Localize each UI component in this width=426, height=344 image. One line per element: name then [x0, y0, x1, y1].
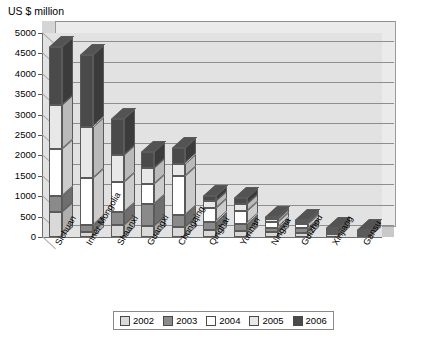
bar-segment[interactable] [141, 168, 154, 184]
bar-segment[interactable] [111, 155, 124, 182]
y-tick [38, 94, 42, 95]
bar-segment[interactable] [49, 47, 62, 105]
bar-column[interactable] [141, 33, 154, 237]
gridline [55, 82, 394, 83]
y-tick [38, 155, 42, 156]
bar-column[interactable] [203, 33, 216, 237]
legend-label: 2003 [176, 315, 197, 326]
bar-segment[interactable] [172, 176, 185, 215]
bar-segment[interactable] [234, 204, 247, 211]
bar-segment[interactable] [203, 196, 216, 201]
y-tick [38, 53, 42, 54]
y-tick [38, 74, 42, 75]
y-tick [38, 176, 42, 177]
y-tick-label: 500 [0, 211, 36, 222]
y-tick-label: 3500 [0, 88, 36, 99]
y-tick [38, 135, 42, 136]
legend: 20022003200420052006 [113, 311, 334, 330]
bar-column[interactable] [295, 33, 308, 237]
bar-segment[interactable] [49, 196, 62, 212]
bar-segment[interactable] [234, 198, 247, 204]
bar-segment[interactable] [172, 164, 185, 176]
bar-column[interactable] [265, 33, 278, 237]
bar-column[interactable] [326, 33, 339, 237]
bar-column[interactable] [49, 33, 62, 237]
y-tick [38, 115, 42, 116]
bar-segment[interactable] [172, 148, 185, 163]
bar-segment[interactable] [49, 105, 62, 149]
y-tick [38, 237, 42, 238]
bar-segment[interactable] [265, 219, 278, 222]
y-tick-label: 2000 [0, 149, 36, 160]
bar-segment[interactable] [111, 119, 124, 155]
bar-segment-side [62, 37, 73, 105]
bar-segment-side [93, 117, 104, 178]
bar-segment[interactable] [265, 222, 278, 227]
gridline [55, 123, 394, 124]
legend-label: 2006 [306, 315, 327, 326]
y-tick-label: 5000 [0, 27, 36, 38]
y-tick-label: 2500 [0, 129, 36, 140]
y-axis-title: US $ million [8, 5, 64, 17]
legend-label: 2005 [262, 315, 283, 326]
legend-swatch [249, 316, 259, 326]
legend-item[interactable]: 2004 [206, 315, 240, 326]
legend-item[interactable]: 2003 [163, 315, 197, 326]
legend-item[interactable]: 2005 [249, 315, 283, 326]
y-tick-label: 4000 [0, 68, 36, 79]
legend-swatch [293, 316, 303, 326]
legend-swatch [163, 316, 173, 326]
y-tick [38, 33, 42, 34]
bar-segment[interactable] [80, 127, 93, 178]
y-tick [38, 196, 42, 197]
y-tick-label: 1000 [0, 190, 36, 201]
y-tick-label: 4500 [0, 47, 36, 58]
bar-segment[interactable] [234, 211, 247, 223]
bar-segment[interactable] [295, 222, 308, 224]
y-tick-label: 1500 [0, 170, 36, 181]
bar-segment[interactable] [141, 204, 154, 226]
legend-swatch [120, 316, 130, 326]
bar-segment[interactable] [80, 55, 93, 126]
legend-label: 2002 [133, 315, 154, 326]
bar-segment[interactable] [80, 178, 93, 225]
bar-column[interactable] [80, 33, 93, 237]
gridline [55, 143, 394, 144]
bar-column[interactable] [357, 33, 370, 237]
bar-segment[interactable] [49, 149, 62, 196]
bar-segment[interactable] [203, 201, 216, 208]
bar-segment[interactable] [141, 184, 154, 204]
gridline [55, 62, 394, 63]
bar-segment[interactable] [111, 212, 124, 225]
gridline [55, 164, 394, 165]
bar-segment[interactable] [295, 220, 308, 222]
gridline [55, 41, 394, 42]
gridline [55, 103, 394, 104]
y-tick [38, 217, 42, 218]
legend-item[interactable]: 2002 [120, 315, 154, 326]
bar-column[interactable] [172, 33, 185, 237]
bar-column[interactable] [234, 33, 247, 237]
y-tick-label: 0 [0, 231, 36, 242]
y-tick-label: 3000 [0, 109, 36, 120]
bar-segment[interactable] [141, 152, 154, 168]
bar-segment[interactable] [172, 215, 185, 227]
bar-segment-side [93, 46, 104, 127]
legend-label: 2004 [219, 315, 240, 326]
legend-swatch [206, 316, 216, 326]
legend-item[interactable]: 2006 [293, 315, 327, 326]
chart-container: US $ million 050010001500200025003000350… [0, 0, 426, 344]
gridline [55, 21, 394, 22]
